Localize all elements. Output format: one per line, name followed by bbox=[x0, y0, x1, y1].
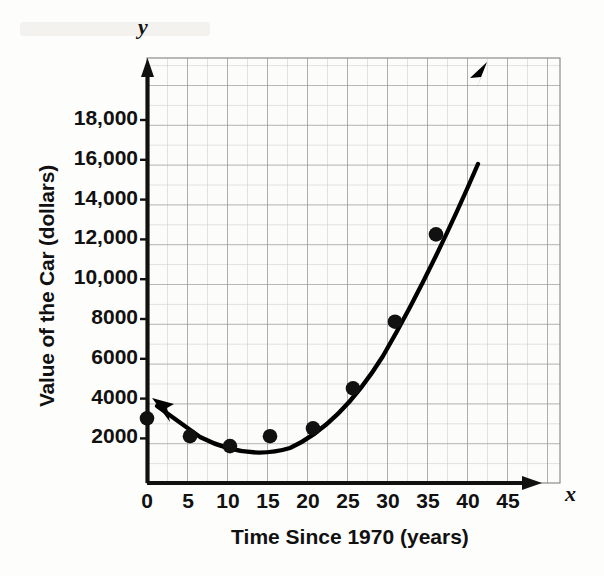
data-point bbox=[388, 314, 403, 329]
grid-major bbox=[147, 58, 560, 483]
chart-figure: y x 2000 4000 6000 8000 10,000 12,000 14… bbox=[0, 0, 604, 576]
x-tick-label: 45 bbox=[478, 489, 538, 513]
data-point bbox=[223, 439, 238, 454]
data-point bbox=[263, 429, 278, 444]
data-point bbox=[429, 227, 444, 242]
data-point bbox=[140, 411, 155, 426]
y-axis-title: Value of the Car (dollars) bbox=[35, 121, 59, 451]
x-axis-variable-label: x bbox=[565, 481, 576, 507]
data-point bbox=[346, 381, 361, 396]
x-axis-title: Time Since 1970 (years) bbox=[140, 525, 560, 549]
y-axis-variable-label: y bbox=[138, 14, 148, 40]
data-point bbox=[183, 429, 198, 444]
data-point bbox=[306, 421, 321, 436]
